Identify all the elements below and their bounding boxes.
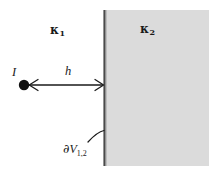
region-left-label: κ1 [50,24,65,36]
kappa2-subscript: 2 [150,27,156,37]
interface-label: ∂V1,2 [63,143,87,156]
kappa1-symbol: κ [50,23,59,37]
point-source-label: I [12,66,16,79]
region-right-label: κ2 [140,23,155,35]
distance-label: h [65,65,71,78]
point-source-dot [19,80,29,90]
interface-subscript: 1,2 [77,149,87,158]
interface-leader-curve [88,131,104,143]
figure-canvas: κ1 κ2 I h ∂V1,2 [0,0,209,171]
volume-symbol: V [69,142,76,156]
region-right-texture-overlay [105,10,209,166]
kappa2-symbol: κ [140,22,149,36]
kappa1-subscript: 1 [60,28,66,38]
figure-vector-layer [0,0,209,171]
